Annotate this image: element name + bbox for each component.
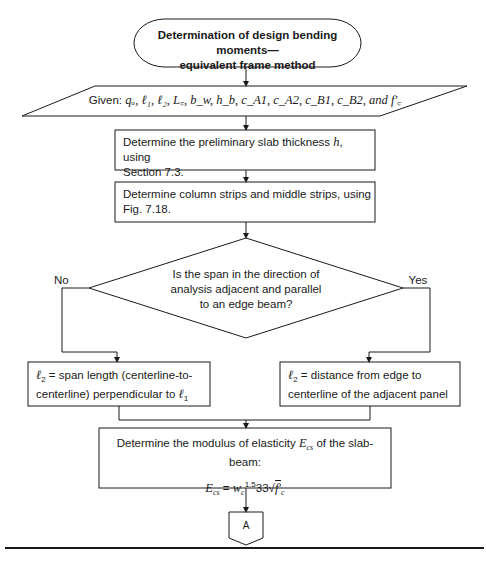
start-title: Determination of design bending moments—…	[140, 28, 355, 73]
decision-text: Is the span in the direction of analysis…	[150, 267, 342, 312]
given-variables: qᵤ, ℓ₁, ℓ₂, L꜀, b_w, h_b, c_A1, c_A2, c_…	[125, 93, 401, 107]
modulus-text: Determine the modulus of elasticity Ecs …	[102, 436, 388, 500]
yes-branch-text: ℓ2 = distance from edge to centerline of…	[288, 368, 458, 402]
start-line2: equivalent frame method	[140, 58, 355, 73]
modulus-equation: Ecs = wc1.533√f′c	[102, 477, 388, 500]
step2-text: Determine column strips and middle strip…	[123, 187, 373, 217]
given-prefix: Given:	[89, 94, 125, 106]
no-branch-text: ℓ2 = span length (centerline-to- centerl…	[36, 368, 208, 407]
step1-text: Determine the preliminary slab thickness…	[123, 135, 373, 180]
connector-label: A	[229, 518, 263, 533]
no-label: No	[54, 273, 84, 288]
start-line1: Determination of design bending moments—	[140, 28, 355, 58]
given-text: Given: qᵤ, ℓ₁, ℓ₂, L꜀, b_w, h_b, c_A1, c…	[40, 93, 450, 108]
yes-label: Yes	[403, 273, 433, 288]
